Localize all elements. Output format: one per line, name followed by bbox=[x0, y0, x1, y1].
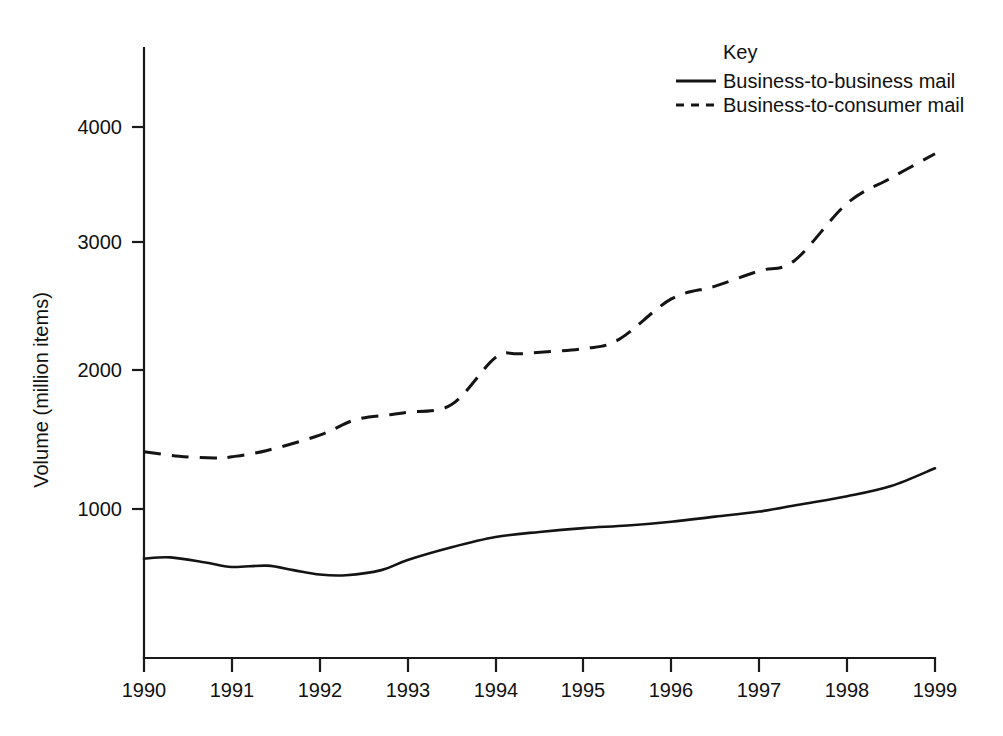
x-tick-label-1998: 1998 bbox=[825, 679, 870, 701]
x-tick-label-1995: 1995 bbox=[561, 679, 606, 701]
series-line-business-to-consumer bbox=[144, 154, 935, 458]
line-chart: 4000 3000 2000 1000 Volume (million item… bbox=[0, 0, 1003, 736]
y-tick-label-2000: 2000 bbox=[78, 359, 123, 381]
x-tick-label-1993: 1993 bbox=[386, 679, 431, 701]
x-tick-label-1991: 1991 bbox=[210, 679, 255, 701]
chart-legend: Key Business-to-business mail Business-t… bbox=[676, 41, 964, 116]
series-line-business-to-business bbox=[144, 468, 935, 575]
x-tick-label-1994: 1994 bbox=[474, 679, 519, 701]
x-tick-label-1992: 1992 bbox=[298, 679, 343, 701]
x-tick-label-1990: 1990 bbox=[122, 679, 167, 701]
legend-label-business-to-business: Business-to-business mail bbox=[723, 70, 955, 92]
legend-title: Key bbox=[723, 41, 757, 63]
x-tick-label-1996: 1996 bbox=[649, 679, 694, 701]
x-tick-label-1997: 1997 bbox=[737, 679, 782, 701]
x-axis-ticks bbox=[144, 658, 935, 672]
y-axis-title: Volume (million items) bbox=[30, 292, 52, 488]
legend-label-business-to-consumer: Business-to-consumer mail bbox=[723, 94, 964, 116]
y-tick-label-1000: 1000 bbox=[78, 498, 123, 520]
y-tick-label-4000: 4000 bbox=[78, 116, 123, 138]
chart-container: 4000 3000 2000 1000 Volume (million item… bbox=[0, 0, 1003, 736]
y-tick-label-3000: 3000 bbox=[78, 231, 123, 253]
y-axis-ticks bbox=[132, 127, 144, 509]
x-tick-label-1999: 1999 bbox=[913, 679, 958, 701]
